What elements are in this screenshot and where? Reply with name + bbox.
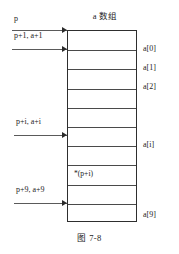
array-box: *(p+i) (67, 30, 137, 222)
cell-divider (68, 50, 136, 51)
pointer-label: p (14, 14, 18, 23)
arrow-head-icon (62, 200, 67, 206)
index-label-6: a[i] (143, 140, 154, 149)
index-label-2: a[2] (143, 82, 156, 91)
array-title: a 数组 (60, 9, 150, 21)
cell-divider (68, 69, 136, 70)
arrow-head-icon (62, 46, 67, 52)
pointer-label: p+9, a+9 (16, 185, 45, 194)
cell-content-6: *(p+i) (74, 169, 93, 178)
cell-divider (68, 146, 136, 147)
pointer-label: p+1, a+1 (14, 31, 43, 40)
cell-divider (68, 89, 136, 90)
pointer-line (14, 203, 67, 204)
cell-divider (68, 204, 136, 205)
arrow-head-icon (62, 132, 67, 138)
cell-divider (68, 108, 136, 109)
index-label-1: a[1] (143, 63, 156, 72)
cell-divider (68, 127, 136, 128)
figure-caption: 图 7-8 (0, 231, 179, 243)
pointer-line (14, 135, 67, 136)
cell-divider (68, 165, 136, 166)
index-label-0: a[0] (143, 44, 156, 53)
array-pointer-figure: a 数组 *(p+i) pp+1, a+1p+i, a+ip+9, a+9 a[… (0, 0, 179, 254)
arrow-head-icon (62, 27, 67, 33)
pointer-label: p+i, a+i (16, 117, 41, 126)
cell-divider (68, 185, 136, 186)
pointer-line (12, 49, 67, 50)
index-label-9: a[9] (143, 210, 156, 219)
